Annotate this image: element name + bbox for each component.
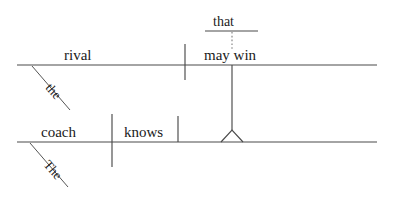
diagram-canvas: that rival may win the coach knows The bbox=[0, 0, 395, 197]
label-rival: rival bbox=[64, 47, 92, 63]
label-The-upper: The bbox=[41, 157, 66, 182]
sentence-diagram: that rival may win the coach knows The bbox=[0, 0, 395, 197]
label-the-lower: the bbox=[43, 80, 65, 102]
label-may-win: may win bbox=[204, 47, 257, 63]
label-coach: coach bbox=[41, 124, 76, 140]
label-knows: knows bbox=[124, 124, 163, 140]
label-that: that bbox=[213, 14, 234, 29]
relative-clause-connector-tripod bbox=[221, 130, 243, 142]
